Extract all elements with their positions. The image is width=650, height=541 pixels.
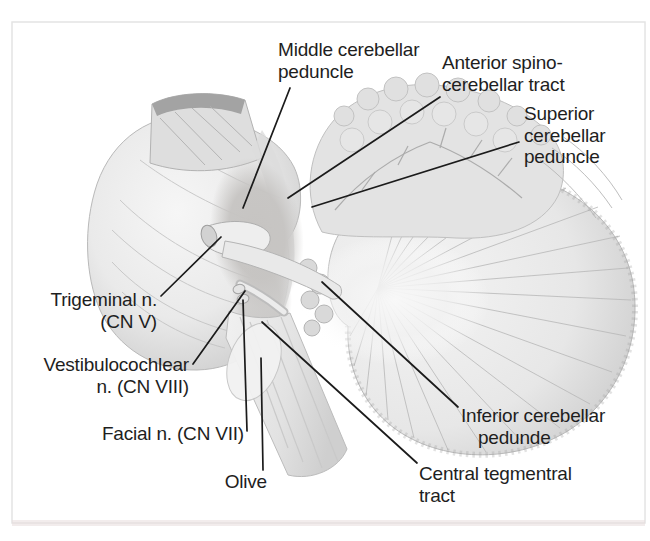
label-anterior-spinocerebellar-tract: Anterior spino- cerebellar tract bbox=[442, 52, 564, 95]
label-line: cerebellar bbox=[524, 125, 605, 147]
label-line: Anterior spino- bbox=[442, 52, 564, 74]
label-line: tract bbox=[419, 485, 572, 507]
label-line: Vestibulocochlear bbox=[43, 354, 189, 376]
label-facial-nerve: Facial n. (CN VII) bbox=[102, 423, 244, 445]
hemisphere-highlight bbox=[300, 235, 490, 365]
label-olive: Olive bbox=[225, 471, 267, 493]
label-line: cerebellar tract bbox=[442, 74, 564, 96]
label-line: Facial n. (CN VII) bbox=[102, 423, 244, 445]
label-line: (CN V) bbox=[50, 311, 157, 333]
anatomy-figure: Middle cerebellar peduncle Anterior spin… bbox=[0, 0, 650, 541]
label-line: n. (CN VIII) bbox=[43, 376, 189, 398]
label-middle-cerebellar-peduncle: Middle cerebellar peduncle bbox=[278, 39, 419, 82]
label-line: pedunde bbox=[461, 427, 605, 449]
label-line: Superior bbox=[524, 103, 605, 125]
label-line: Middle cerebellar bbox=[278, 39, 419, 61]
label-central-tegmental-tract: Central tegmentral tract bbox=[419, 463, 572, 506]
label-line: peduncle bbox=[524, 146, 605, 168]
label-superior-cerebellar-peduncle: Superior cerebellar peduncle bbox=[524, 103, 605, 168]
label-trigeminal-nerve: Trigeminal n. (CN V) bbox=[50, 289, 157, 332]
label-line: Olive bbox=[225, 471, 267, 493]
label-vestibulocochlear-nerve: Vestibulocochlear n. (CN VIII) bbox=[43, 354, 189, 397]
label-inferior-cerebellar-peduncle: Inferior cerebellar pedunde bbox=[461, 405, 605, 448]
label-line: peduncle bbox=[278, 61, 419, 83]
label-line: Inferior cerebellar bbox=[461, 405, 605, 427]
label-line: Central tegmentral bbox=[419, 463, 572, 485]
frame-bottom-tint bbox=[12, 520, 645, 526]
label-line: Trigeminal n. bbox=[50, 289, 157, 311]
